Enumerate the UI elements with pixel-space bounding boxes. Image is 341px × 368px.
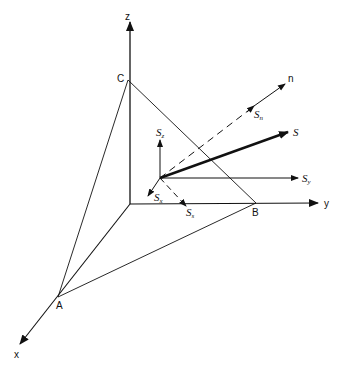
stress-diagram: z y x n C B A S Sn Sy Sz Sx Ss bbox=[0, 0, 341, 368]
point-B-label: B bbox=[252, 207, 259, 218]
x-axis-label: x bbox=[14, 349, 19, 360]
vector-Sy-label: Sy bbox=[302, 172, 312, 186]
vector-Ss-label: Ss bbox=[186, 206, 195, 220]
vector-S-label: S bbox=[293, 126, 299, 138]
edge-CB bbox=[128, 80, 256, 203]
vector-Ss bbox=[160, 178, 186, 206]
x-axis bbox=[20, 204, 130, 344]
normal-axis-n bbox=[254, 84, 285, 106]
n-axis-label: n bbox=[288, 73, 294, 84]
vector-Sn-label: Sn bbox=[254, 108, 264, 122]
z-axis-label: z bbox=[125, 11, 130, 22]
vector-Sz-label: Sz bbox=[156, 126, 165, 140]
y-axis-label: y bbox=[324, 198, 329, 209]
vector-Sx-label: Sx bbox=[154, 191, 164, 205]
point-A-label: A bbox=[56, 300, 63, 311]
edge-AB bbox=[58, 203, 256, 297]
edge-CA bbox=[58, 80, 128, 297]
y-axis bbox=[130, 203, 318, 204]
point-C-label: C bbox=[117, 73, 124, 84]
normal-arrow-Sn bbox=[247, 106, 254, 112]
normal-dashed bbox=[160, 107, 253, 178]
vector-S bbox=[160, 132, 288, 178]
